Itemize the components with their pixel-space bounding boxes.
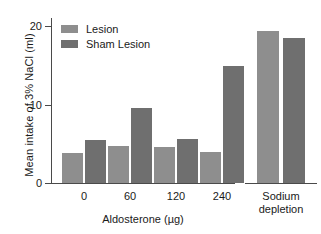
legend-swatch-sham-lesion-icon (61, 40, 78, 48)
y-tick-mark-20 (45, 26, 51, 27)
sodium-depletion-line-2: depletion (245, 203, 317, 216)
x-axis-title: Aldosterone (µg) (51, 213, 235, 225)
legend-swatch-lesion-icon (61, 25, 78, 33)
bar-sham-240 (223, 66, 244, 183)
x-axis-line-main (51, 183, 235, 184)
bar-sham-sodium (283, 38, 305, 183)
bar-lesion-240 (200, 152, 221, 183)
bar-sham-0 (85, 140, 106, 183)
bar-chart: Mean intake of 3% NaCl (ml) 0 10 20 0 60… (0, 0, 321, 234)
x-tick-label-120: 120 (154, 190, 198, 202)
bar-sham-120 (177, 139, 198, 183)
y-tick-mark-0 (45, 183, 51, 184)
legend-item-sham-lesion: Sham Lesion (61, 37, 150, 50)
y-axis-line (51, 18, 52, 184)
x-tick-label-60: 60 (108, 190, 152, 202)
bar-lesion-120 (154, 147, 175, 183)
bar-sham-60 (131, 108, 152, 183)
y-tick-label-10: 10 (22, 100, 42, 110)
bar-lesion-0 (62, 153, 83, 183)
x-tick-label-0: 0 (62, 190, 106, 202)
bar-lesion-sodium (257, 31, 279, 183)
legend-item-lesion: Lesion (61, 22, 150, 35)
y-tick-mark-10 (45, 105, 51, 106)
x-axis-line-sodium (245, 183, 317, 184)
sodium-depletion-line-1: Sodium (245, 190, 317, 203)
legend-label-sham-lesion: Sham Lesion (86, 38, 150, 50)
chart-legend: Lesion Sham Lesion (61, 22, 150, 52)
y-tick-label-0: 0 (22, 178, 42, 188)
legend-label-lesion: Lesion (86, 23, 118, 35)
y-tick-label-20: 20 (22, 21, 42, 31)
x-tick-label-240: 240 (200, 190, 244, 202)
sodium-depletion-group-label: Sodium depletion (245, 190, 317, 215)
bar-lesion-60 (108, 146, 129, 183)
